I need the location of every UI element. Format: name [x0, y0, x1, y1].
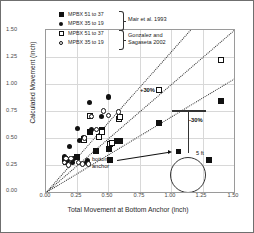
y-tick-label: 1.00 [0, 81, 17, 87]
brace-mair [119, 11, 124, 31]
citation-mair: Mair et al. 1993 [128, 16, 167, 23]
legend-marker-open-square [59, 31, 68, 36]
data-point [89, 127, 94, 132]
x-tick-label: 0.75 [122, 193, 156, 199]
brace-gonzalez [119, 30, 124, 50]
depth-dimension-line [188, 111, 189, 153]
data-point [206, 157, 212, 163]
x-tick-label: 1.50 [216, 193, 250, 199]
data-point [156, 87, 162, 93]
y-axis-label: Calculated Movement (inch) [29, 8, 36, 158]
y-tick-label: 0.25 [0, 162, 17, 168]
plot-area: +30% -30% bottom anchor 5 ft [45, 29, 235, 193]
citation-gonzalez-line2: Sagaseta 2002 [128, 39, 166, 45]
x-tick-label: 0.00 [28, 193, 62, 199]
minus-30-annotation: -30% [189, 118, 203, 124]
legend-marker-filled-circle [59, 22, 68, 26]
data-point [96, 134, 102, 140]
x-tick-label: 1.25 [184, 193, 218, 199]
callout-arrow-head [168, 150, 172, 154]
bottom-anchor-annotation: bottom anchor [92, 156, 109, 170]
data-point [86, 161, 91, 166]
data-point [67, 144, 72, 149]
bottom-anchor-line1: bottom [92, 156, 109, 162]
legend-entry-mair-35-19: MPBX 35 to 19 [59, 19, 104, 28]
data-point [87, 100, 92, 105]
legend-label: MPBX 35 to 19 [68, 21, 104, 26]
data-point [117, 138, 123, 144]
citation-gonzalez: Gonzalez and Sagaseta 2002 [128, 32, 166, 47]
tunnel-circle [170, 157, 206, 193]
data-point [63, 156, 68, 161]
depth-label: 5 ft [196, 150, 204, 157]
y-tick-label: 1.25 [0, 54, 17, 60]
callout-arrow-line [117, 152, 170, 161]
data-point [82, 135, 87, 140]
data-point [94, 127, 99, 132]
legend-label: MPBX 51 to 37 [68, 31, 104, 36]
legend-label: MPBX 35 to 19 [68, 40, 104, 45]
data-point [101, 108, 106, 113]
y-tick-label: 1.50 [0, 27, 17, 33]
y-tick-label: 0.00 [0, 188, 17, 194]
bottom-anchor-line2: anchor [92, 163, 109, 169]
data-point [106, 94, 111, 99]
data-point [117, 114, 123, 120]
gridline-vertical [77, 30, 78, 192]
legend-marker-open-circle [59, 41, 68, 45]
legend-entry-gonzalez-35-19: MPBX 35 to 19 [59, 38, 104, 47]
x-tick-label: 0.25 [59, 193, 93, 199]
data-point [80, 161, 85, 166]
data-point [106, 113, 111, 118]
data-point [116, 109, 121, 114]
data-point [99, 114, 104, 119]
citation-gonzalez-line1: Gonzalez and [128, 32, 163, 38]
data-point [93, 148, 99, 154]
bottom-anchor-marker [176, 149, 181, 154]
data-point [156, 120, 162, 126]
legend-entry-gonzalez-51-37: MPBX 51 to 37 [59, 29, 104, 38]
data-point [66, 162, 71, 167]
x-tick-label: 1.00 [153, 193, 187, 199]
legend-marker-filled-square [59, 12, 68, 17]
y-tick-label: 0.50 [0, 135, 17, 141]
data-point [89, 114, 94, 119]
legend-label: MPBX 51 to 37 [68, 12, 104, 17]
data-point [109, 140, 115, 146]
legend: MPBX 51 to 37 MPBX 35 to 19 MPBX 51 to 3… [59, 10, 104, 48]
x-axis-label: Total Movement at Bottom Anchor (inch) [1, 206, 254, 213]
data-point [68, 156, 73, 161]
data-point [218, 98, 224, 104]
data-point [218, 57, 224, 63]
data-point [75, 126, 80, 131]
x-tick-label: 0.50 [90, 193, 124, 199]
depth-dimension-top-bar [172, 110, 206, 112]
figure-container: Calculated Movement (inch) 1.50 1.25 1.0… [0, 0, 254, 233]
data-point [99, 129, 105, 135]
legend-entry-mair-51-37: MPBX 51 to 37 [59, 10, 104, 19]
plus-30-annotation: +30% [140, 88, 155, 94]
y-tick-label: 0.75 [0, 108, 17, 114]
